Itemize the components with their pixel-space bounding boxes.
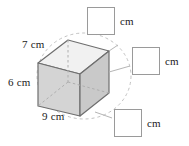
figure-stage: 7 cm 6 cm 9 cm cm cm cm: [0, 0, 189, 146]
answer-group-bottom: cm: [114, 109, 160, 137]
dimension-label-width: 9 cm: [42, 110, 65, 122]
answer-input-right[interactable]: [132, 47, 160, 75]
answer-group-right: cm: [132, 47, 178, 75]
dimension-label-depth: 7 cm: [22, 38, 45, 50]
dimension-label-height: 6 cm: [8, 76, 31, 88]
answer-input-top[interactable]: [87, 7, 115, 35]
unit-label-bottom: cm: [147, 117, 160, 129]
answer-input-bottom[interactable]: [114, 109, 142, 137]
unit-label-top: cm: [120, 15, 133, 27]
unit-label-right: cm: [165, 55, 178, 67]
answer-group-top: cm: [87, 7, 133, 35]
